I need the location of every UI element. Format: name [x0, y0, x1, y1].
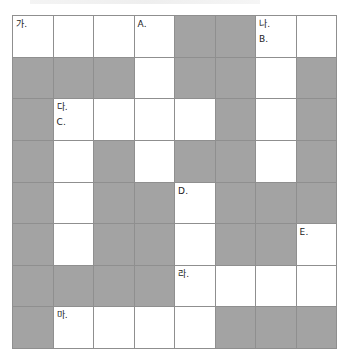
blocked-cell — [54, 58, 94, 99]
blocked-cell — [216, 141, 256, 182]
blocked-cell — [216, 224, 256, 265]
open-cell[interactable] — [135, 141, 175, 182]
blocked-cell — [175, 141, 215, 182]
open-cell[interactable] — [256, 266, 296, 307]
blocked-cell — [13, 141, 53, 182]
open-cell[interactable] — [256, 141, 296, 182]
open-cell[interactable] — [54, 141, 94, 182]
blocked-cell — [256, 183, 296, 224]
blocked-cell — [135, 266, 175, 307]
open-cell[interactable] — [94, 307, 134, 348]
open-cell[interactable] — [297, 16, 337, 57]
blocked-cell — [297, 58, 337, 99]
blocked-cell — [13, 183, 53, 224]
blocked-cell — [216, 16, 256, 57]
cropped-header-text — [30, 0, 260, 4]
open-cell[interactable] — [256, 58, 296, 99]
clue-number-label: 마. — [57, 310, 68, 320]
open-cell[interactable] — [175, 99, 215, 140]
open-cell[interactable]: A. — [135, 16, 175, 57]
clue-number-label: 나. — [259, 19, 270, 29]
blocked-cell — [94, 183, 134, 224]
blocked-cell — [297, 141, 337, 182]
open-cell[interactable] — [135, 307, 175, 348]
open-cell[interactable] — [54, 224, 94, 265]
blocked-cell — [216, 99, 256, 140]
open-cell[interactable]: 다.C. — [54, 99, 94, 140]
open-cell[interactable]: 가. — [13, 16, 53, 57]
blocked-cell — [13, 58, 53, 99]
blocked-cell — [54, 266, 94, 307]
open-cell[interactable] — [135, 99, 175, 140]
blocked-cell — [297, 307, 337, 348]
blocked-cell — [135, 224, 175, 265]
blocked-cell — [216, 307, 256, 348]
blocked-cell — [94, 141, 134, 182]
blocked-cell — [13, 224, 53, 265]
blocked-cell — [135, 183, 175, 224]
open-cell[interactable] — [94, 16, 134, 57]
blocked-cell — [256, 224, 296, 265]
blocked-cell — [256, 307, 296, 348]
clue-number-label: C. — [57, 117, 67, 127]
open-cell[interactable] — [216, 266, 256, 307]
open-cell[interactable] — [94, 99, 134, 140]
blocked-cell — [175, 16, 215, 57]
blocked-cell — [13, 266, 53, 307]
blocked-cell — [216, 183, 256, 224]
open-cell[interactable] — [135, 58, 175, 99]
open-cell[interactable]: 나.B. — [256, 16, 296, 57]
blocked-cell — [13, 307, 53, 348]
open-cell[interactable]: E. — [297, 224, 337, 265]
blocked-cell — [94, 224, 134, 265]
open-cell[interactable] — [54, 183, 94, 224]
open-cell[interactable] — [297, 266, 337, 307]
open-cell[interactable] — [175, 224, 215, 265]
clue-number-label: E. — [300, 227, 309, 237]
open-cell[interactable] — [175, 307, 215, 348]
blocked-cell — [94, 266, 134, 307]
clue-number-label: 가. — [16, 19, 27, 29]
clue-number-label: D. — [178, 186, 188, 196]
open-cell[interactable]: 라. — [175, 266, 215, 307]
blocked-cell — [175, 58, 215, 99]
clue-number-label: 다. — [57, 102, 68, 112]
clue-number-label: A. — [138, 19, 147, 29]
open-cell[interactable]: 마. — [54, 307, 94, 348]
clue-number-label: 라. — [178, 269, 189, 279]
blocked-cell — [94, 58, 134, 99]
open-cell[interactable] — [54, 16, 94, 57]
open-cell[interactable]: D. — [175, 183, 215, 224]
clue-number-label: B. — [259, 34, 268, 44]
crossword-grid: 가.A.나.B.다.C.D.E.라.마. — [12, 15, 337, 349]
open-cell[interactable] — [256, 99, 296, 140]
blocked-cell — [297, 99, 337, 140]
blocked-cell — [297, 183, 337, 224]
blocked-cell — [216, 58, 256, 99]
blocked-cell — [13, 99, 53, 140]
